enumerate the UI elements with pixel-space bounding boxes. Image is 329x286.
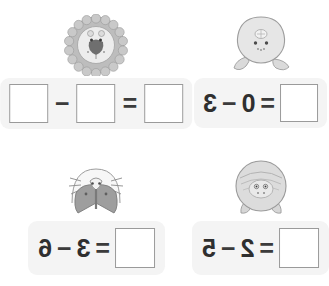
equals-sign-1: = (122, 91, 139, 116)
moth-illustration (59, 155, 133, 221)
minuend-4: 5 (202, 236, 216, 261)
subtrahend-2: 0 (242, 91, 256, 116)
equation-4: = 2 − 5 (202, 228, 319, 268)
answer-box-2[interactable] (280, 84, 318, 122)
pig-illustration (230, 155, 292, 221)
equals-sign-2: = (260, 91, 277, 116)
minuend-box-1[interactable] (77, 84, 116, 123)
minus-sign-3: − (56, 236, 73, 261)
turtle-icon (230, 14, 292, 76)
subtrahend-3: 3 (76, 236, 90, 261)
answer-box-3[interactable] (115, 228, 155, 268)
turtle-illustration (230, 12, 292, 78)
equation-2: = 0 − 3 (203, 84, 318, 122)
minus-sign-2: − (221, 91, 238, 116)
equals-sign-4: = (259, 236, 276, 261)
equation-panel-3: = 3 − 6 (28, 221, 165, 275)
equation-panel-2: = 0 − 3 (194, 78, 327, 128)
problem-cell-1: = − (0, 0, 192, 143)
minus-sign-1: − (54, 91, 71, 116)
equation-panel-1: = − (0, 78, 192, 129)
pig-icon (230, 159, 292, 217)
minuend-2: 3 (203, 91, 217, 116)
problem-cell-2: = 0 − 3 (192, 0, 329, 143)
equals-sign-3: = (94, 236, 111, 261)
lion-illustration (64, 12, 128, 78)
subtrahend-box-1[interactable] (9, 84, 48, 123)
equation-1: = − (9, 84, 183, 123)
equation-panel-4: = 2 − 5 (192, 221, 329, 275)
subtrahend-4: 2 (241, 236, 255, 261)
moth-icon (59, 159, 133, 217)
minus-sign-4: − (220, 236, 237, 261)
equation-3: = 3 − 6 (38, 228, 155, 268)
minuend-3: 6 (38, 236, 52, 261)
problem-cell-4: = 2 − 5 (192, 143, 329, 286)
answer-box-1a[interactable] (144, 84, 183, 123)
lion-icon (64, 14, 128, 76)
answer-box-4[interactable] (279, 228, 319, 268)
problem-cell-3: = 3 − 6 (0, 143, 192, 286)
